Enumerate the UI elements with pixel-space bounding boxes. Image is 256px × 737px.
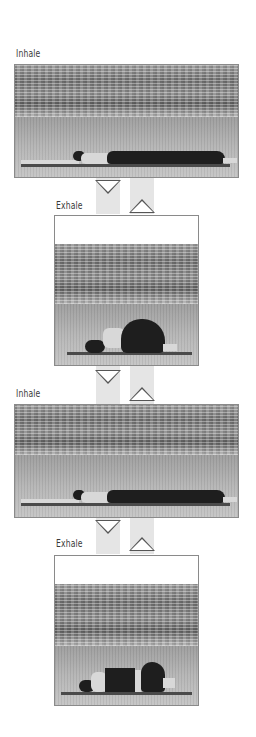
feet (163, 678, 175, 688)
arrow-down-icon (95, 370, 121, 384)
feet (163, 344, 177, 351)
arrow-up-icon (129, 199, 155, 213)
sea-background (15, 405, 238, 455)
yoga-mat (61, 692, 192, 695)
feet (223, 497, 237, 502)
sea-background (55, 584, 198, 646)
sea-background (55, 244, 198, 304)
feet (223, 158, 237, 163)
arrow-down-icon (95, 180, 121, 194)
arrow-down-icon (95, 520, 121, 534)
legs (107, 490, 225, 503)
arms (21, 160, 79, 164)
torso (105, 668, 135, 692)
arms (21, 499, 79, 503)
sand-background (15, 455, 238, 517)
sand-background (15, 117, 238, 177)
pose-photo-inhale (14, 64, 239, 178)
step-label-inhale: Inhale (16, 388, 40, 399)
step-label-exhale: Exhale (56, 538, 83, 549)
head (85, 340, 105, 353)
legs (107, 151, 225, 164)
legs-curled (141, 662, 165, 692)
pose-photo-exhale (54, 555, 199, 706)
pose-photo-inhale (14, 404, 239, 518)
sky-background (55, 556, 198, 584)
arrow-up-icon (129, 387, 155, 401)
step-label-inhale: Inhale (16, 48, 40, 59)
yoga-mat (21, 164, 230, 167)
sky-background (55, 216, 198, 244)
sea-background (15, 65, 238, 117)
pose-photo-exhale (54, 215, 199, 366)
step-label-exhale: Exhale (56, 200, 83, 211)
arrow-up-icon (129, 537, 155, 551)
yoga-mat (21, 503, 230, 506)
